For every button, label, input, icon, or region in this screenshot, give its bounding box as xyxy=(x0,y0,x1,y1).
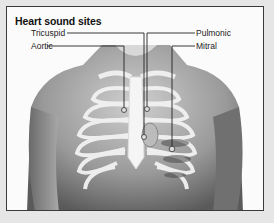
pulmonic-point xyxy=(145,107,150,112)
label-pulmonic: Pulmonic xyxy=(196,28,231,38)
label-tricuspid: Tricuspid xyxy=(31,28,65,38)
figure-title: Heart sound sites xyxy=(15,15,101,27)
mitral-point xyxy=(169,146,175,152)
tricuspid-point xyxy=(142,135,147,140)
figure-frame: Heart sound sites Tricuspid Aortic Pulmo… xyxy=(6,6,264,211)
label-aortic: Aortic xyxy=(31,41,53,51)
aortic-point xyxy=(122,108,127,113)
sternum xyxy=(128,77,144,169)
label-mitral: Mitral xyxy=(196,41,217,51)
